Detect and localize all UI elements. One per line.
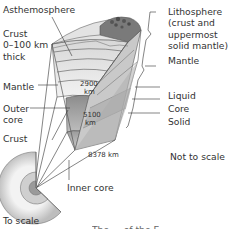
label-solid: Solid [168, 116, 190, 127]
label-lithosphere-2: (crust and [168, 17, 215, 28]
depth-5100-unit: km [85, 119, 96, 127]
label-mantle-left: Mantle [3, 81, 34, 92]
label-crust: Crust [3, 28, 27, 39]
label-outer-core-2: core [3, 114, 23, 125]
label-to-scale: To scale [3, 215, 39, 226]
label-asthenosphere: Asthemosphere [3, 4, 75, 15]
label-mantle-right: Mantle [168, 55, 199, 66]
label-crust-thick: thick [3, 51, 25, 62]
label-crust-thickness: 0–100 km [3, 39, 48, 50]
caption-fragment: The ... of the E [92, 224, 159, 229]
label-lithosphere-4: solid mantle) [168, 40, 228, 51]
depth-8378: 8378 km [88, 151, 119, 159]
label-inner-core: Inner core [67, 182, 114, 193]
depth-5100: 5100 [83, 111, 101, 119]
label-liquid: Liquid [168, 90, 196, 101]
to-scale-cross-section [0, 152, 61, 224]
depth-2900: 2900 [80, 80, 98, 88]
depth-2900-unit: km [84, 88, 95, 96]
label-lithosphere-3: uppermost [168, 29, 218, 40]
label-outer-core: Outer [3, 103, 29, 114]
label-core: Core [168, 103, 189, 114]
label-not-to-scale: Not to scale [170, 151, 225, 162]
label-crust-lower: Crust [3, 133, 27, 144]
label-lithosphere: Lithosphere [168, 6, 222, 17]
